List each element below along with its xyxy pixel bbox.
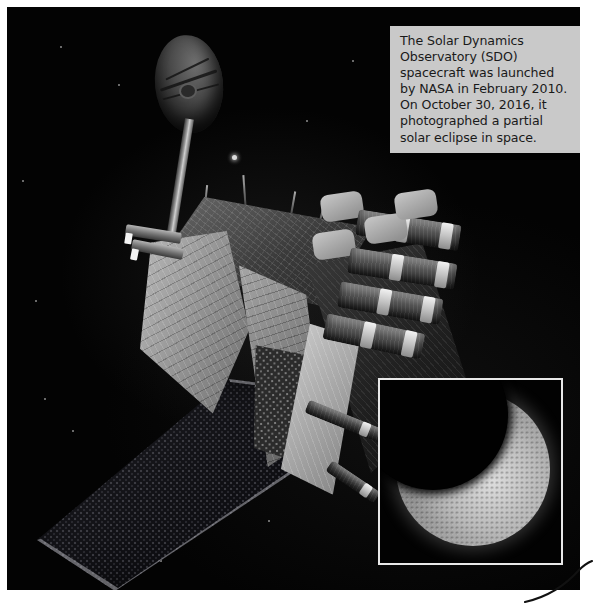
instrument-band	[438, 222, 454, 250]
instrument-band	[434, 261, 450, 289]
instrument-band	[359, 321, 376, 349]
instrument-cover-paddle	[393, 188, 438, 221]
spacecraft-photograph: The Solar Dynamics Observatory (SDO) spa…	[7, 7, 580, 590]
instrument-band	[419, 296, 435, 324]
photo-caption: The Solar Dynamics Observatory (SDO) spa…	[390, 26, 580, 153]
page-curl-mark	[523, 558, 593, 604]
instrument-band	[401, 330, 418, 358]
antenna-horn-tip	[130, 248, 139, 260]
strut-band	[358, 421, 372, 437]
eclipse-inset-photo	[378, 378, 563, 565]
caption-line: by NASA in February 2010.	[400, 81, 571, 97]
caption-line: Observatory (SDO)	[400, 49, 571, 65]
instrument-band	[376, 288, 392, 316]
page-root: The Solar Dynamics Observatory (SDO) spa…	[0, 0, 593, 604]
caption-line: On October 30, 2016, it	[400, 97, 571, 113]
strut-band	[359, 482, 374, 498]
caption-line: photographed a partial	[400, 113, 571, 129]
instrument-band	[388, 254, 404, 282]
caption-line: spacecraft was launched	[400, 65, 571, 81]
caption-line: The Solar Dynamics	[400, 33, 571, 49]
caption-line: solar eclipse in space.	[400, 130, 571, 146]
